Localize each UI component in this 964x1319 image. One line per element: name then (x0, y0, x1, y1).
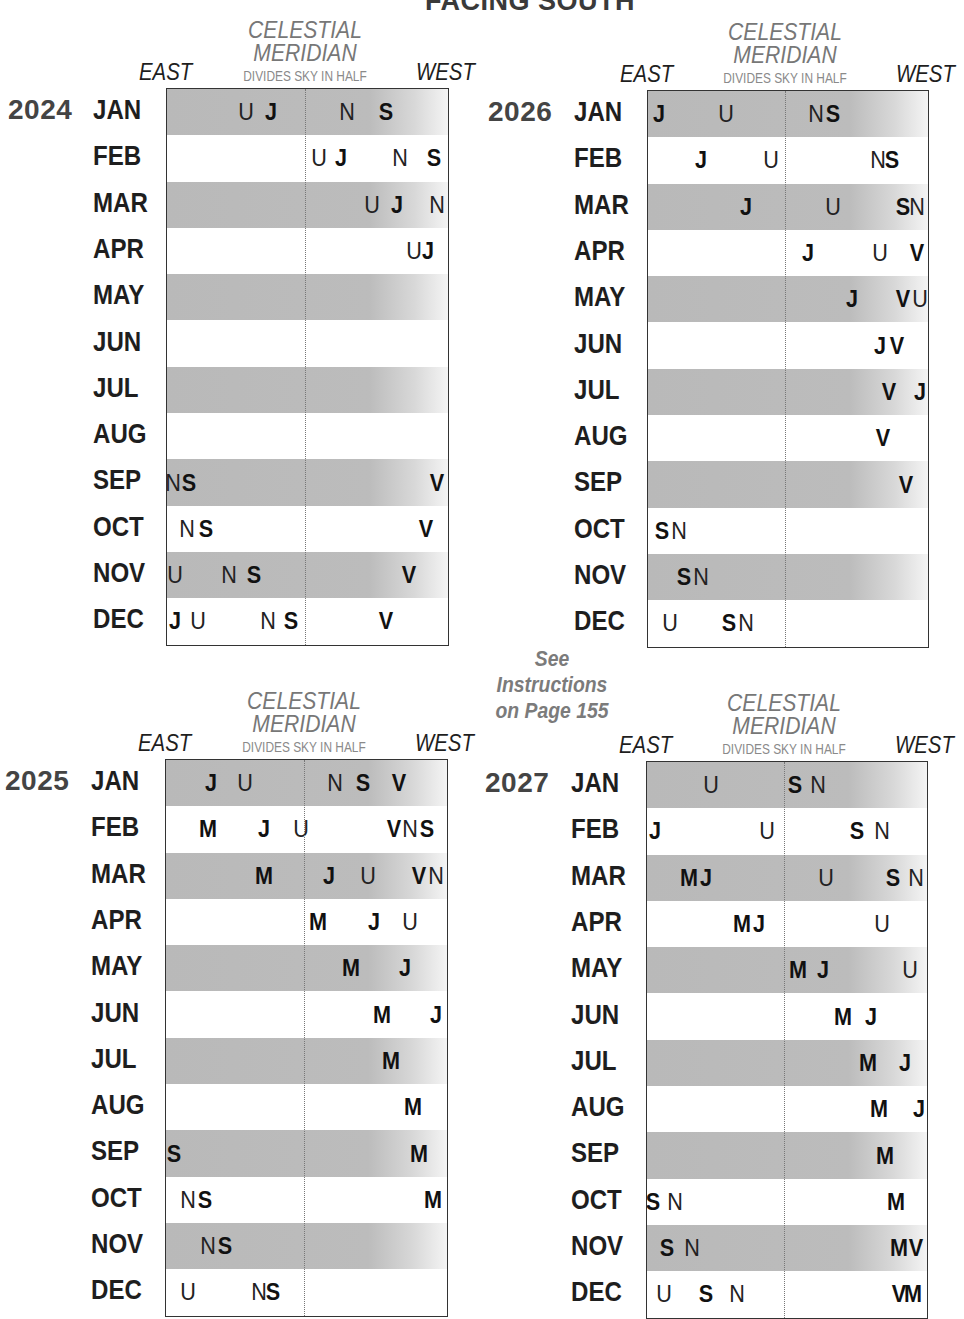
planet-marker-m: M (904, 1282, 922, 1306)
planet-marker-v: V (896, 287, 910, 311)
planet-marker-s: S (788, 773, 802, 797)
planet-marker-v: V (910, 241, 924, 265)
planet-marker-m: M (404, 1095, 422, 1119)
planet-marker-v: V (876, 426, 890, 450)
planet-marker-n: N (810, 773, 826, 797)
month-row: MJ (647, 994, 927, 1040)
west-label: WEST (895, 731, 954, 759)
year-label: 2025 (5, 765, 69, 797)
planet-marker-m: M (890, 1236, 908, 1260)
planet-marker-s: S (218, 1234, 232, 1258)
planet-marker-s: S (677, 565, 691, 589)
month-label-dec: DEC (93, 603, 144, 635)
planet-marker-j: J (422, 239, 434, 263)
planet-marker-u: U (403, 910, 419, 934)
planet-marker-j: J (899, 1051, 911, 1075)
planet-marker-n: N (671, 519, 687, 543)
planet-marker-n: N (200, 1234, 216, 1258)
month-row: MJ (166, 945, 447, 991)
month-label-dec: DEC (571, 1276, 622, 1308)
month-label-sep: SEP (571, 1137, 619, 1169)
month-label-jun: JUN (93, 326, 141, 358)
planet-marker-j: J (846, 287, 858, 311)
month-row: M (166, 1084, 447, 1130)
month-label-oct: OCT (93, 511, 144, 543)
planet-marker-u: U (902, 958, 918, 982)
month-row: MJUVN (166, 853, 447, 899)
planet-marker-v: V (379, 609, 393, 633)
month-label-nov: NOV (91, 1228, 143, 1260)
meridian-heading-line-2: MERIDIAN (234, 41, 375, 64)
month-label-dec: DEC (574, 605, 625, 637)
planet-marker-s: S (266, 1280, 280, 1304)
planet-marker-m: M (859, 1051, 877, 1075)
month-label-apr: APR (574, 235, 625, 267)
planet-marker-j: J (430, 1003, 442, 1027)
planet-marker-u: U (818, 866, 834, 890)
month-row: JUNS (648, 137, 928, 183)
month-label-sep: SEP (93, 464, 141, 496)
month-row: VJ (648, 369, 928, 415)
planet-marker-n: N (693, 565, 709, 589)
month-row: UNSV (167, 552, 448, 598)
meridian-heading-line-1: CELESTIAL (233, 689, 374, 712)
month-label-jul: JUL (571, 1045, 616, 1077)
planet-marker-n: N (327, 771, 343, 795)
meridian-subheading: DIVIDES SKY IN HALF (699, 741, 869, 757)
planet-marker-v: V (909, 1236, 923, 1260)
planet-marker-s: S (167, 1142, 181, 1166)
planet-marker-v: V (882, 380, 896, 404)
month-label-nov: NOV (574, 559, 626, 591)
planet-marker-m: M (733, 912, 751, 936)
planet-marker-v: V (418, 517, 432, 541)
planet-marker-j: J (913, 1097, 925, 1121)
month-row: USNVM (647, 1271, 927, 1317)
planet-marker-m: M (424, 1188, 442, 1212)
planet-marker-s: S (655, 519, 669, 543)
planet-marker-u: U (237, 771, 253, 795)
planet-marker-s: S (850, 819, 864, 843)
planet-marker-n: N (429, 193, 445, 217)
planet-marker-v: V (412, 864, 426, 888)
planet-marker-j: J (914, 380, 926, 404)
planet-marker-u: U (364, 193, 380, 217)
planet-marker-n: N (874, 819, 890, 843)
planet-marker-m: M (373, 1003, 391, 1027)
meridian-heading: CELESTIALMERIDIAN (715, 20, 856, 66)
planet-marker-s: S (379, 100, 393, 124)
planet-marker-u: U (704, 773, 720, 797)
west-label: WEST (896, 60, 955, 88)
month-row (167, 413, 448, 459)
meridian-heading-line-2: MERIDIAN (233, 712, 374, 735)
month-row: UNS (166, 1269, 447, 1315)
month-label-may: MAY (91, 950, 142, 982)
month-row: JUNSV (166, 760, 447, 806)
planet-marker-j: J (740, 195, 752, 219)
planet-grid: JUNSVMJUVNSMJUVNMJUMJMJMMSMNSMNSUNS (165, 759, 448, 1317)
month-row: JUSN (647, 808, 927, 854)
month-label-jul: JUL (574, 374, 619, 406)
planet-marker-u: U (311, 146, 327, 170)
month-row: UJ (167, 228, 448, 274)
month-label-feb: FEB (574, 142, 622, 174)
east-label: EAST (619, 731, 672, 759)
planet-marker-s: S (884, 148, 898, 172)
planet-marker-v: V (386, 817, 400, 841)
planet-marker-u: U (361, 864, 377, 888)
planet-marker-m: M (382, 1049, 400, 1073)
month-label-oct: OCT (571, 1184, 622, 1216)
planet-marker-s: S (355, 771, 369, 795)
planet-marker-n: N (181, 1188, 197, 1212)
planet-marker-s: S (722, 611, 736, 635)
month-label-aug: AUG (571, 1091, 625, 1123)
east-label: EAST (139, 58, 192, 86)
meridian-heading: CELESTIALMERIDIAN (233, 689, 374, 735)
planet-marker-s: S (646, 1190, 660, 1214)
planet-marker-s: S (420, 817, 434, 841)
meridian-heading-line-1: CELESTIAL (234, 18, 375, 41)
month-label-jul: JUL (93, 372, 138, 404)
planet-marker-n: N (403, 817, 419, 841)
month-row: NSV (167, 459, 448, 505)
planet-marker-m: M (680, 866, 698, 890)
month-label-may: MAY (93, 279, 144, 311)
